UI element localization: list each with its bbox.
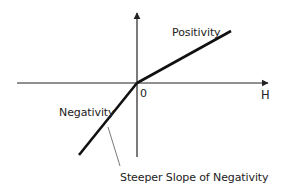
negativity-line xyxy=(79,83,137,155)
x-axis-label: H xyxy=(261,89,270,102)
positivity-label: Positivity xyxy=(172,26,221,39)
annotation-leader-line xyxy=(108,127,120,166)
steeper-slope-annotation: Steeper Slope of Negativity xyxy=(120,171,269,184)
origin-label: 0 xyxy=(140,87,147,100)
diagram: Positivity Negativity 0 H Steeper Slope … xyxy=(0,0,282,193)
negativity-label: Negativity xyxy=(59,106,114,119)
